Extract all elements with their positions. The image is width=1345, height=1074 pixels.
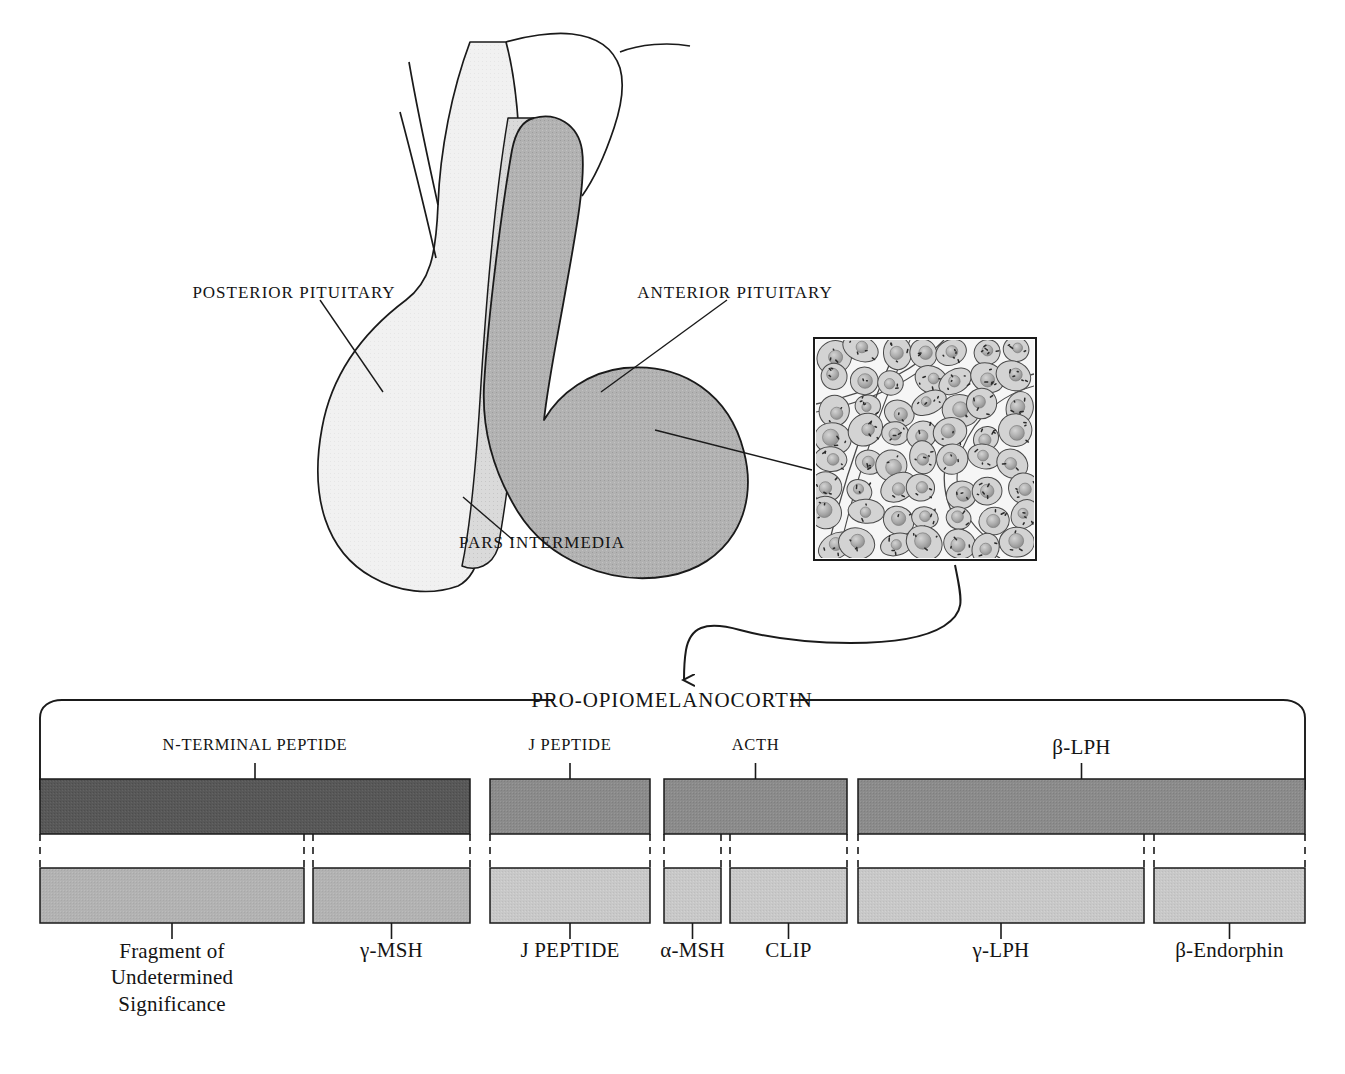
cell-nucleus bbox=[921, 397, 931, 407]
cell-nucleus bbox=[952, 511, 964, 523]
product-bar bbox=[664, 868, 721, 923]
cytoplasmic-granule bbox=[888, 537, 890, 542]
label-pars-intermedia: PARS INTERMEDIA bbox=[459, 533, 625, 553]
anterior-pituitary-shape bbox=[484, 116, 748, 578]
pomc-title: PRO-OPIOMELANOCORTIN bbox=[531, 688, 813, 713]
hypothalamic-contour-right bbox=[620, 44, 690, 52]
precursor-bar bbox=[664, 779, 847, 834]
precursor-bar bbox=[490, 779, 650, 834]
product-label: β-Endorphin bbox=[1175, 938, 1284, 963]
cytoplasmic-granule bbox=[982, 462, 984, 464]
product-label: γ-MSH bbox=[360, 938, 423, 963]
cell-nucleus bbox=[943, 452, 956, 465]
cell-nucleus bbox=[949, 376, 960, 387]
cell-nucleus bbox=[920, 511, 931, 522]
infundibular-branch-upper bbox=[409, 62, 438, 205]
cell-nucleus bbox=[981, 373, 995, 387]
cell-nucleus bbox=[890, 346, 903, 359]
product-label: CLIP bbox=[765, 938, 811, 963]
product-bar bbox=[730, 868, 847, 923]
product-label: α-MSH bbox=[660, 938, 725, 963]
cell-nucleus bbox=[980, 543, 992, 555]
cell-nucleus bbox=[851, 534, 865, 548]
product-bar bbox=[858, 868, 1144, 923]
cell-nucleus bbox=[1009, 368, 1022, 381]
cytoplasmic-granule bbox=[915, 535, 917, 538]
figure-canvas: POSTERIOR PITUITARY ANTERIOR PITUITARY P… bbox=[0, 0, 1345, 1074]
infundibular-branch-lower bbox=[400, 112, 436, 258]
cell-nucleus bbox=[1019, 483, 1031, 495]
precursor-label: N-TERMINAL PEPTIDE bbox=[163, 735, 348, 755]
label-posterior-pituitary: POSTERIOR PITUITARY bbox=[192, 283, 395, 303]
precursor-label: ACTH bbox=[732, 735, 780, 755]
cell-nucleus bbox=[987, 514, 1000, 527]
cell-nucleus bbox=[823, 429, 839, 445]
histology-inset bbox=[803, 330, 1046, 568]
cell-nucleus bbox=[819, 482, 831, 494]
pomc-brace-right bbox=[790, 700, 1305, 790]
cell-nucleus bbox=[884, 379, 894, 389]
cell-nucleus bbox=[951, 538, 965, 552]
precursor-bar bbox=[858, 779, 1305, 834]
precursor-label: β-LPH bbox=[1052, 735, 1110, 760]
cytoplasmic-granule bbox=[987, 495, 989, 499]
cell-nucleus bbox=[1013, 343, 1023, 353]
precursor-bar bbox=[40, 779, 470, 834]
label-anterior-pituitary: ANTERIOR PITUITARY bbox=[637, 283, 833, 303]
cell-nucleus bbox=[858, 374, 873, 389]
cytoplasmic-granule bbox=[897, 384, 899, 387]
precursor-label: J PEPTIDE bbox=[529, 735, 612, 755]
cell-nucleus bbox=[1010, 426, 1025, 441]
cytoplasmic-granule bbox=[995, 509, 997, 512]
cytoplasmic-granule bbox=[891, 550, 895, 552]
cell-nucleus bbox=[894, 408, 907, 421]
cell-nucleus bbox=[978, 450, 989, 461]
cell-nucleus bbox=[860, 507, 870, 517]
cell-nucleus bbox=[973, 396, 986, 409]
cell-nucleus bbox=[892, 511, 906, 525]
cell-nucleus bbox=[917, 454, 929, 466]
product-bar bbox=[490, 868, 650, 923]
cell-nucleus bbox=[827, 454, 839, 466]
cytoplasmic-granule bbox=[892, 435, 896, 437]
cell-nucleus bbox=[1009, 533, 1024, 548]
cell-nucleus bbox=[827, 368, 839, 380]
product-label: γ-LPH bbox=[973, 938, 1030, 963]
cell-nucleus bbox=[928, 373, 939, 384]
cell-nucleus bbox=[853, 484, 863, 494]
product-label: Fragment of Undetermined Significance bbox=[72, 938, 272, 1017]
cell-nucleus bbox=[915, 533, 931, 549]
product-bar bbox=[40, 868, 304, 923]
cell-nucleus bbox=[916, 482, 927, 493]
product-label: J PEPTIDE bbox=[520, 938, 619, 963]
cell-nucleus bbox=[862, 423, 875, 436]
cell-nucleus bbox=[891, 540, 901, 550]
pituitary-anatomy-drawing bbox=[0, 0, 1345, 1074]
cytoplasmic-granule bbox=[984, 381, 988, 383]
inset-to-pomc-arrow bbox=[684, 565, 961, 680]
product-bar bbox=[313, 868, 470, 923]
cytoplasmic-granule bbox=[819, 502, 822, 504]
cell-nucleus bbox=[892, 483, 904, 495]
product-bar bbox=[1154, 868, 1305, 923]
cell-nucleus bbox=[956, 487, 971, 502]
cytoplasmic-granule bbox=[1002, 463, 1007, 465]
